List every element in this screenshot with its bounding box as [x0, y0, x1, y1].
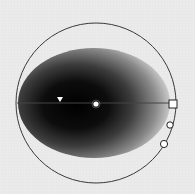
light-intensity-handle-1[interactable]	[167, 122, 173, 128]
lighting-preview[interactable]	[0, 0, 195, 194]
light-direction-square-handle[interactable]	[169, 100, 177, 108]
light-intensity-handle-2[interactable]	[160, 140, 167, 147]
